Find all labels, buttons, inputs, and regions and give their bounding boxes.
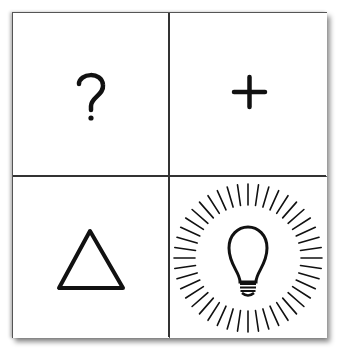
- burst-ray: [283, 298, 297, 314]
- burst-ray: [301, 266, 322, 269]
- burst-ray: [217, 191, 226, 210]
- burst-ray: [277, 303, 288, 321]
- lightbulb-icon: [229, 227, 267, 296]
- burst-ray: [301, 248, 322, 251]
- burst-ray: [200, 202, 214, 218]
- question-mark-icon: [79, 75, 103, 120]
- burst-ray: [277, 196, 288, 214]
- triangle-icon: [59, 231, 123, 288]
- burst-ray: [192, 210, 208, 224]
- burst-ray: [192, 293, 208, 307]
- burst-ray: [200, 298, 214, 314]
- burst-ray: [238, 311, 241, 332]
- burst-ray: [270, 306, 279, 325]
- burst-ray: [299, 273, 319, 279]
- burst-ray: [177, 273, 197, 279]
- burst-ray: [288, 293, 304, 307]
- burst-ray: [256, 185, 259, 206]
- burst-ray: [299, 237, 319, 243]
- burst-ray: [227, 187, 233, 207]
- icons-layer: [0, 0, 339, 355]
- burst-ray: [283, 202, 297, 218]
- burst-ray: [227, 309, 233, 329]
- burst-ray: [208, 303, 219, 321]
- burst-ray: [217, 306, 226, 325]
- burst-ray: [186, 218, 204, 229]
- burst-ray: [181, 227, 200, 236]
- burst-ray: [296, 280, 315, 289]
- burst-ray: [177, 237, 197, 243]
- burst-ray: [293, 287, 311, 298]
- burst-ray: [186, 287, 204, 298]
- burst-ray: [181, 280, 200, 289]
- plus-icon: [234, 77, 265, 107]
- burst-ray: [288, 210, 304, 224]
- burst-ray: [175, 266, 196, 269]
- burst-ray: [263, 309, 269, 329]
- burst-ray: [296, 227, 315, 236]
- burst-ray: [256, 311, 259, 332]
- burst-ray: [263, 187, 269, 207]
- burst-ray: [175, 248, 196, 251]
- burst-ray: [208, 196, 219, 214]
- lightbulb-burst-icon: [174, 184, 322, 332]
- burst-ray: [238, 185, 241, 206]
- burst-ray: [293, 218, 311, 229]
- burst-ray: [270, 191, 279, 210]
